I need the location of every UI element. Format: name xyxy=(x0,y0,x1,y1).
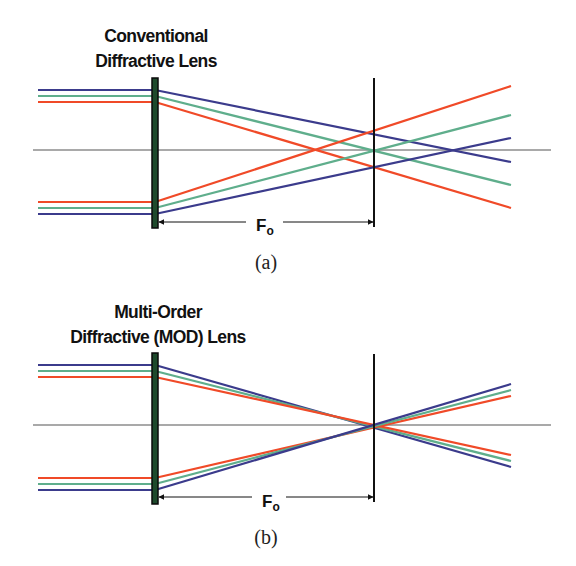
panel-a-title-line-2: Diffractive Lens xyxy=(95,51,218,71)
focal-length-subscript: o xyxy=(266,224,273,238)
panel-a-focal-length-label: Fo xyxy=(256,216,274,238)
panel-b-mod-lens: Multi-Order Diffractive (MOD) Lens Fo (b… xyxy=(33,302,551,549)
focal-length-subscript: o xyxy=(272,500,279,514)
focal-length-symbol: F xyxy=(256,216,266,235)
panel-b-lens-icon xyxy=(152,353,158,504)
panel-b-title-line-2: Diffractive (MOD) Lens xyxy=(70,327,246,347)
refracted-ray-green xyxy=(155,96,511,185)
refracted-ray-red xyxy=(155,377,511,455)
panel-b-rays xyxy=(38,365,511,490)
panel-b-caption: (b) xyxy=(254,526,277,549)
panel-a-conventional-lens: Conventional Diffractive Lens Fo (a) xyxy=(33,26,551,274)
panel-b-title-line-1: Multi-Order xyxy=(114,302,202,322)
panel-a-caption: (a) xyxy=(255,251,277,274)
refracted-ray-blue xyxy=(155,384,511,490)
refracted-ray-red xyxy=(155,86,511,202)
panel-a-title-line-1: Conventional xyxy=(104,26,208,46)
focal-length-symbol: F xyxy=(262,492,272,511)
panel-a-lens-icon xyxy=(152,78,158,228)
lens-diagram: Conventional Diffractive Lens Fo (a) Mul… xyxy=(0,0,576,566)
refracted-ray-red xyxy=(155,102,511,208)
panel-b-focal-length-label: Fo xyxy=(262,492,280,514)
refracted-ray-blue xyxy=(155,90,511,162)
refracted-ray-green xyxy=(155,115,511,208)
